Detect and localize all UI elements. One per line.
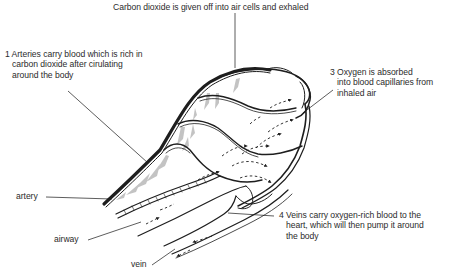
- step4-line1: Veins carry oxygen-rich blood to the: [286, 210, 421, 220]
- artery-text: artery: [16, 191, 38, 201]
- label-artery: artery: [16, 191, 38, 201]
- step4-line2: heart, which will then pump it around: [279, 220, 424, 230]
- leader-artery: [46, 197, 112, 199]
- label-top-text: Carbon dioxide is given off into air cel…: [113, 2, 308, 12]
- label-vein: vein: [131, 259, 147, 269]
- label-airway: airway: [54, 234, 79, 244]
- step3-number: 3: [330, 67, 335, 77]
- airway-text: airway: [54, 234, 79, 244]
- step1-line3: around the body: [5, 70, 143, 80]
- step1-line1: Arteries carry blood which is rich in: [12, 49, 143, 59]
- step3-line1: Oxygen is absorbed: [337, 67, 413, 77]
- label-step1: 1 Arteries carry blood which is rich in …: [5, 49, 143, 80]
- leader-vein: [152, 249, 175, 265]
- step1-line2: carbon dioxide after cirulating: [5, 59, 143, 69]
- leader-step1: [68, 91, 148, 163]
- step3-line3: inhaled air: [330, 88, 433, 98]
- label-top: Carbon dioxide is given off into air cel…: [113, 2, 308, 12]
- artery-vessel: [104, 69, 270, 205]
- step4-line3: the body: [279, 231, 424, 241]
- label-step4: 4 Veins carry oxygen-rich blood to the h…: [279, 210, 424, 241]
- step1-number: 1: [5, 49, 10, 59]
- step4-number: 4: [279, 210, 284, 220]
- vein-text: vein: [131, 259, 147, 269]
- leader-airway: [88, 222, 141, 240]
- label-step3: 3 Oxygen is absorbed into blood capillar…: [330, 67, 433, 98]
- step3-line2: into blood capillaries from: [330, 77, 433, 87]
